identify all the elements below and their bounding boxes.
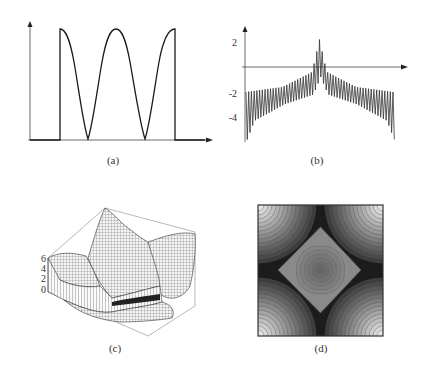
- panel-c: 6 4 2 0 (c): [0, 190, 216, 388]
- panel-d: (d): [216, 190, 432, 388]
- signal-curve: [30, 29, 205, 140]
- y-axis-arrow-icon: [243, 26, 248, 32]
- panel-a-plot: [0, 0, 216, 175]
- signal-curve: [246, 40, 394, 140]
- x-axis-arrow-icon: [206, 138, 213, 143]
- panel-b-plot: 2 -2 -4: [216, 0, 432, 175]
- y-tick-2: 2: [232, 37, 237, 48]
- caption-a: (a): [93, 154, 133, 166]
- y-tick-neg2: -2: [229, 88, 237, 99]
- panel-d-plot: [216, 190, 432, 388]
- caption-b: (b): [297, 154, 337, 166]
- y-tick-neg4: -4: [229, 112, 237, 123]
- panel-b: 2 -2 -4 (b): [216, 0, 432, 175]
- x-axis-arrow-icon: [401, 65, 408, 70]
- y-axis-arrow-icon: [28, 21, 33, 27]
- panel-c-plot: 6 4 2 0: [0, 190, 216, 388]
- panel-a: (a): [0, 0, 216, 175]
- caption-c: (c): [95, 342, 135, 354]
- z-tick-0: 0: [41, 284, 46, 295]
- caption-d: (d): [301, 342, 341, 354]
- z-tick-2: 2: [41, 273, 46, 284]
